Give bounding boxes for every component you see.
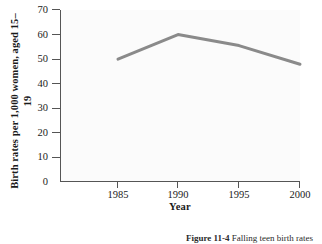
figure-caption: Figure 11-4 Falling teen birth rates — [186, 233, 322, 244]
y-axis-title: Birth rates per 1,000 women, aged 15–19 — [8, 11, 34, 191]
figure-container: 70 60 50 40 30 20 10 0 1985 1990 1995 — [0, 0, 322, 244]
line-series-birth-rate — [118, 35, 300, 65]
x-axis-title: Year — [60, 201, 300, 212]
figure-caption-label: Figure 11-4 — [186, 233, 232, 243]
figure-caption-text: Falling teen birth rates — [232, 233, 313, 243]
